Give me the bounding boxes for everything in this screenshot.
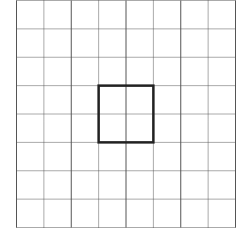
grid-lines xyxy=(17,1,236,228)
square-grid-diagram xyxy=(0,0,248,237)
